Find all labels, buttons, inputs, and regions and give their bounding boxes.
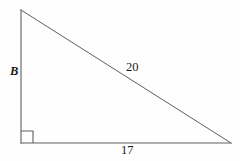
triangle-drawing <box>0 0 240 161</box>
triangle-figure: B 20 17 <box>0 0 240 161</box>
label-vertical-leg: B <box>10 65 18 78</box>
label-hypotenuse: 20 <box>126 61 139 74</box>
hypotenuse-line <box>21 10 231 143</box>
right-angle-marker-icon <box>21 131 33 143</box>
label-horizontal-leg: 17 <box>121 144 134 157</box>
